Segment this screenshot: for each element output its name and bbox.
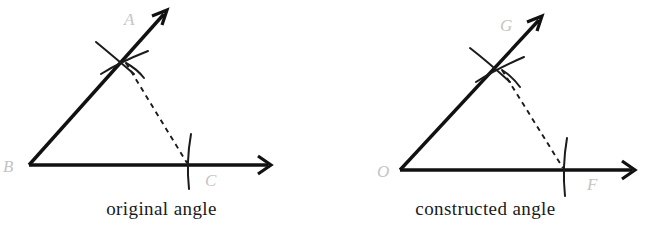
vertex-label-g: G (500, 16, 512, 35)
original-angle-diagram: B A C (0, 0, 323, 200)
vertex-label-o: O (377, 162, 389, 181)
base-construction-arc (564, 138, 567, 196)
figure-root: B A C original angle O G F (0, 0, 647, 243)
vertex-label-a: A (123, 10, 135, 29)
vertex-label-f: F (586, 175, 598, 194)
constructed-angle-diagram: O G F (324, 0, 647, 200)
construction-arc-upper (470, 48, 510, 82)
panel-constructed-angle: O G F constructed angle (324, 0, 647, 243)
vertex-label-b: B (3, 157, 14, 176)
panel-original-angle: B A C original angle (0, 0, 323, 243)
dashed-construction-segment (502, 70, 563, 168)
base-construction-arc (188, 134, 191, 189)
caption-original-angle: original angle (0, 198, 323, 220)
diagonal-ray-ba (29, 14, 164, 165)
dashed-construction-segment (126, 63, 187, 163)
construction-arc-lower (101, 51, 148, 74)
vertex-label-c: C (205, 171, 217, 190)
caption-constructed-angle: constructed angle (324, 198, 647, 220)
